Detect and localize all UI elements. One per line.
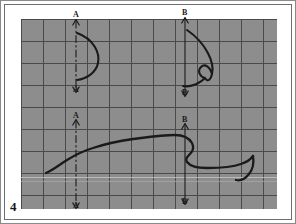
section-label-a-5: A — [73, 202, 79, 210]
drawn-profiles — [46, 30, 253, 180]
figure-number: 4 — [10, 199, 17, 215]
profile-section-b — [183, 30, 213, 86]
section-centerlines — [76, 19, 185, 207]
section-label-a-4: A — [73, 112, 79, 120]
section-arrowheads — [73, 18, 188, 209]
section-label-b-2: B — [182, 9, 187, 17]
section-label-a-1: A — [73, 86, 79, 94]
profile-section-b-tail — [205, 74, 212, 80]
section-label-b-6: B — [182, 116, 187, 124]
profile-plan-view — [46, 135, 253, 173]
section-label-b-7: B — [182, 198, 187, 206]
section-label-a-0: A — [73, 11, 79, 19]
figure-page: AABBAABB 4 — [0, 0, 296, 224]
profile-section-a — [77, 33, 98, 80]
section-label-b-3: B — [182, 89, 187, 97]
drawing-overlay — [1, 1, 296, 224]
